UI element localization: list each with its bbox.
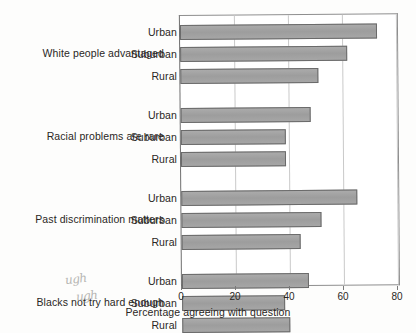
category-tick-label: Rural [97,70,177,82]
gridline [396,14,399,284]
bar [181,129,286,145]
bar [180,46,348,62]
x-tick-mark [397,286,398,290]
x-tick-mark [289,286,290,290]
x-tick-label: 40 [277,291,301,302]
bar [181,212,322,228]
bar [182,234,301,250]
bar [181,107,311,123]
x-tick-mark [343,286,344,290]
x-tick-label: 0 [169,291,193,302]
handwritten-note: ugh [75,288,98,304]
x-tick-mark [181,286,182,290]
x-tick-label: 80 [385,291,409,302]
category-tick-label: Suburban [97,131,177,143]
bar [180,68,318,84]
category-tick-label: Rural [97,319,177,331]
handwritten-note: ugh [64,271,87,287]
category-tick-label: Suburban [97,214,177,226]
category-tick-label: Rural [97,236,177,248]
bar [181,151,286,167]
x-tick-mark [235,286,236,290]
x-tick-label: 20 [223,291,247,302]
category-tick-label: Urban [97,26,177,38]
category-tick-label: Urban [97,109,177,121]
plot-area [179,13,400,287]
category-tick-label: Urban [97,275,177,287]
x-tick-label: 60 [331,291,355,302]
bar [182,317,290,333]
bar [180,23,377,40]
x-axis-title: Percentage agreeing with question [0,306,416,318]
category-tick-label: Suburban [97,48,177,60]
category-tick-label: Urban [97,192,177,204]
bar [181,190,357,206]
category-tick-label: Rural [97,153,177,165]
